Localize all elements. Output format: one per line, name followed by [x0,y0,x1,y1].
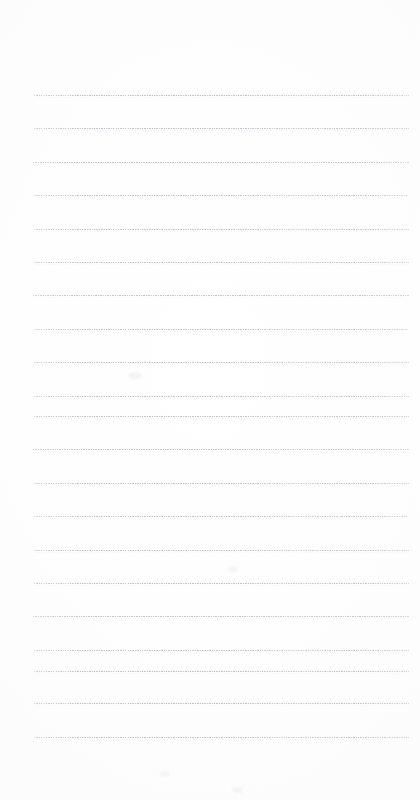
ruled-line-echo [36,331,404,332]
ruled-line-ink [34,396,409,397]
ruled-line [34,671,409,674]
ruled-lines-layer [0,0,420,800]
ruled-line-ink [34,737,409,738]
ruled-line-echo [36,552,405,553]
ruled-line [34,95,409,98]
ruled-line-echo [36,264,405,265]
ruled-line [34,362,409,365]
ruled-line-ink [34,95,409,96]
ruled-line [34,128,409,131]
ruled-line-echo [35,297,405,298]
ruled-line-ink [34,550,409,551]
ruled-line-ink [34,671,409,672]
ruled-line-echo [36,705,405,706]
ruled-line [33,449,409,452]
ruled-line [34,262,409,265]
ruled-line [34,229,409,232]
ruled-line [34,583,409,586]
ruled-line-ink [34,229,409,230]
ruled-line-echo [35,451,405,452]
ruled-line [33,616,409,619]
ruled-line-ink [34,329,408,330]
ruled-line [34,737,409,740]
ruled-line [33,295,409,298]
ruled-line-echo [36,398,405,399]
ruled-line [34,550,409,553]
ruled-line [34,396,409,399]
ruled-line-echo [35,618,405,619]
ruled-line-ink [34,416,409,417]
ruled-line-ink [34,262,409,263]
ruled-line-echo [35,164,405,165]
ruled-line-ink [34,128,409,129]
ruled-line-echo [36,130,405,131]
ruled-line-ink [34,483,409,484]
ruled-line-echo [36,585,405,586]
ruled-line-ink [34,583,409,584]
ruled-line [33,162,409,165]
ruled-line [34,650,409,653]
ruled-line-echo [36,485,405,486]
ruled-line-ink [33,162,409,163]
ruled-line-echo [36,673,405,674]
ruled-line-echo [36,364,405,365]
ruled-line-ink [33,449,409,450]
ruled-line [34,416,409,419]
ruled-line-ink [34,516,408,517]
ruled-line [34,195,408,198]
ruled-line-echo [36,739,405,740]
ruled-line-echo [36,518,404,519]
ruled-line [34,483,409,486]
ruled-line-echo [36,231,405,232]
ruled-line-echo [36,652,405,653]
scanned-page [0,0,420,800]
ruled-line-ink [34,362,409,363]
ruled-line-ink [34,195,408,196]
ruled-line-ink [34,703,409,704]
ruled-line [34,329,408,332]
ruled-line-echo [36,197,404,198]
ruled-line-ink [33,295,409,296]
ruled-line-ink [34,650,409,651]
ruled-line-echo [36,97,405,98]
ruled-line-echo [36,418,405,419]
ruled-line [34,516,408,519]
ruled-line [34,703,409,706]
ruled-line-ink [33,616,409,617]
